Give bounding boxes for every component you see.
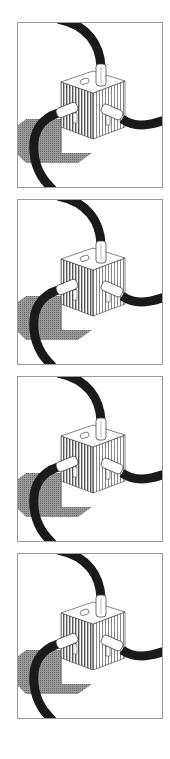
cube-cable-illustration (18, 554, 163, 719)
right-cable (122, 119, 163, 125)
left-slot (73, 290, 77, 300)
left-slot (73, 113, 77, 123)
illustration-panel: Panel 3 (17, 376, 163, 542)
illustration-panel: Panel 4 (17, 553, 163, 719)
cube-cable-illustration (18, 200, 163, 365)
top-cable (58, 554, 101, 598)
cube-cable-illustration (18, 377, 163, 542)
top-cable (58, 377, 101, 421)
right-cable (122, 650, 163, 656)
illustration-panel: Panel 1 (17, 22, 163, 188)
left-slot (73, 644, 77, 654)
right-cable (122, 473, 163, 479)
right-cable (122, 296, 163, 302)
top-cable (58, 200, 101, 244)
left-slot (73, 467, 77, 477)
cube-cable-illustration (18, 23, 163, 188)
top-cable (58, 23, 101, 67)
illustration-panel: Panel 2 (17, 199, 163, 365)
